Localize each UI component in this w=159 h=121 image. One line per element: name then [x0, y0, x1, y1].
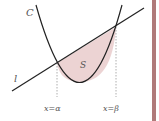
curve-label: C: [26, 7, 34, 18]
region-label: S: [80, 60, 86, 70]
side-accent-bar: [152, 0, 156, 121]
area-between-curve-and-line-diagram: C l S x=α x=β: [0, 0, 159, 121]
shaded-region-s: [57, 27, 116, 82]
alpha-label: x=α: [44, 104, 61, 113]
beta-label: x=β: [103, 104, 119, 113]
line-label: l: [14, 73, 17, 84]
